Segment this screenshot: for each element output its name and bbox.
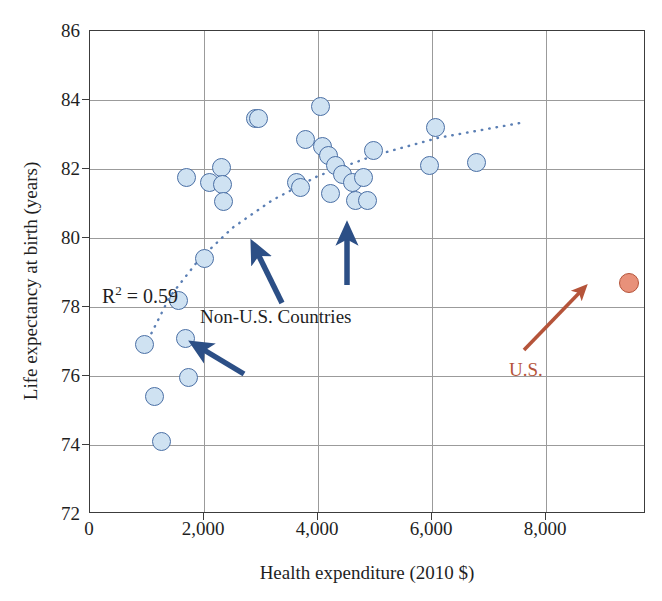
arrow-us	[524, 290, 582, 350]
data-point-nonus	[420, 156, 439, 175]
x-tick-label: 0	[84, 519, 94, 538]
x-tick-label: 6,000	[410, 519, 453, 538]
non-us-countries-label: Non-U.S. Countries	[200, 306, 351, 328]
y-tick-label: 86	[22, 21, 80, 40]
y-tickmark	[82, 99, 89, 100]
data-point-nonus	[213, 175, 232, 194]
trendline-layer	[90, 31, 646, 514]
gridline-vertical	[432, 31, 433, 512]
gridline-vertical	[546, 31, 547, 512]
r-squared-symbol: R	[102, 285, 115, 307]
data-point-nonus	[176, 329, 195, 348]
x-axis-title: Health expenditure (2010 $)	[89, 562, 645, 584]
data-point-nonus	[214, 192, 233, 211]
data-point-nonus	[179, 368, 198, 387]
y-axis-ticks: 86 84 82 80 78 76 74 72	[0, 0, 80, 601]
data-point-nonus	[354, 168, 373, 187]
x-tickmark	[431, 513, 432, 520]
data-point-nonus	[291, 178, 310, 197]
data-point-nonus	[467, 153, 486, 172]
gridline-horizontal	[90, 238, 644, 239]
us-label: U.S.	[509, 359, 543, 381]
y-tick-label: 72	[22, 504, 80, 523]
y-tickmark	[82, 237, 89, 238]
r-squared-value: = 0.59	[122, 285, 178, 307]
y-tick-label: 78	[22, 297, 80, 316]
data-point-nonus	[311, 97, 330, 116]
y-tick-label: 80	[22, 228, 80, 247]
x-tick-label: 8,000	[524, 519, 567, 538]
data-point-nonus	[177, 168, 196, 187]
x-tickmark	[203, 513, 204, 520]
x-tick-label: 2,000	[182, 519, 225, 538]
data-point-nonus	[321, 184, 340, 203]
r-squared-label: R2 = 0.59	[102, 283, 178, 308]
x-tick-label: 4,000	[296, 519, 339, 538]
data-point-nonus	[426, 118, 445, 137]
annotation-arrows-layer	[90, 31, 646, 514]
data-point-nonus	[152, 432, 171, 451]
data-point-nonus	[135, 335, 154, 354]
x-tickmark	[317, 513, 318, 520]
data-point-nonus	[358, 191, 377, 210]
y-tick-label: 76	[22, 366, 80, 385]
data-point-nonus	[364, 141, 383, 160]
gridline-horizontal	[90, 445, 644, 446]
scatter-plot-figure: Life expectancy at birth (years) 86 84 8…	[0, 0, 662, 601]
data-point-nonus	[212, 158, 231, 177]
y-tickmark	[82, 306, 89, 307]
gridline-horizontal	[90, 376, 644, 377]
data-point-nonus	[195, 249, 214, 268]
y-tick-label: 82	[22, 159, 80, 178]
data-point-us	[619, 273, 639, 293]
y-tickmark	[82, 375, 89, 376]
y-tick-label: 74	[22, 435, 80, 454]
y-tickmark	[82, 168, 89, 169]
y-tickmark	[82, 444, 89, 445]
arrow-nonus-upleft	[256, 250, 282, 303]
gridline-horizontal	[90, 100, 644, 101]
data-point-nonus	[249, 109, 268, 128]
gridline-vertical	[204, 31, 205, 512]
data-point-nonus	[145, 387, 164, 406]
x-tickmark	[545, 513, 546, 520]
plot-area: R2 = 0.59 Non-U.S. Countries U.S.	[89, 30, 645, 513]
y-tick-label: 84	[22, 90, 80, 109]
arrow-nonus-downleft	[199, 347, 244, 374]
